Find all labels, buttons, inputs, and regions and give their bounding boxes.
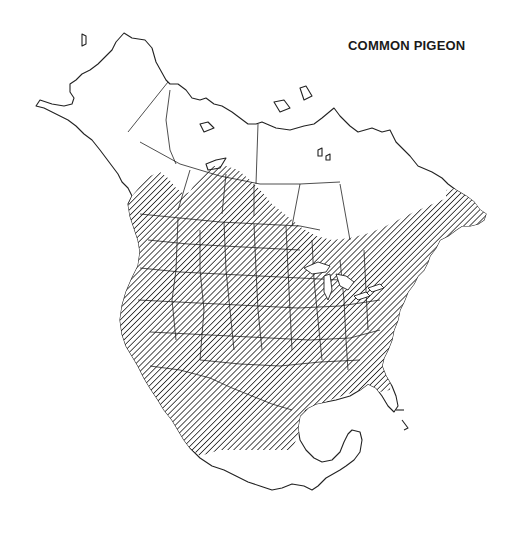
north-america-map [0,0,516,543]
range-map: COMMON PIGEON [0,0,516,543]
caribbean-islands [396,410,408,430]
